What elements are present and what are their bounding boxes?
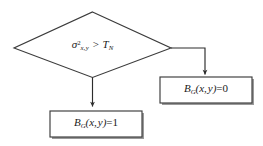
threshold-subscript: N bbox=[109, 44, 114, 51]
greater-than-operator: > bbox=[89, 38, 103, 50]
edge-false-line bbox=[171, 48, 205, 75]
flowchart-canvas: σ2x, y > TN BG(x, y)=1 BG(x, y)=0 bbox=[0, 0, 263, 146]
bg-symbol-true: B bbox=[74, 116, 81, 128]
bg-equals-false: =0 bbox=[216, 82, 228, 94]
box-false-label: BG(x, y)=0 bbox=[160, 82, 252, 95]
bg-arguments-true: (x, y) bbox=[86, 116, 107, 128]
bg-arguments-false: (x, y) bbox=[196, 82, 217, 94]
bg-equals-true: =1 bbox=[106, 116, 118, 128]
variance-subscript: x, y bbox=[81, 44, 89, 51]
bg-symbol-false: B bbox=[184, 82, 191, 94]
decision-condition-label: σ2x, y > TN bbox=[14, 38, 171, 51]
box-true-label: BG(x, y)=1 bbox=[50, 116, 142, 129]
